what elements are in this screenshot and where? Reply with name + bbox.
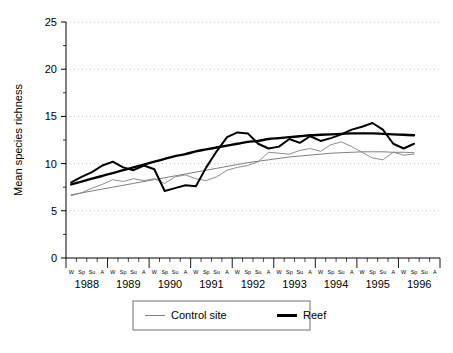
x-season-label: W	[193, 269, 199, 275]
x-season-label: A	[142, 269, 146, 275]
y-tick-label: 5	[51, 205, 57, 217]
y-tick-label: 15	[45, 110, 57, 122]
x-season-label: Sp	[411, 269, 418, 275]
x-season-label: A	[184, 269, 188, 275]
x-season-label: Su	[255, 269, 262, 275]
trendline-control-site	[71, 152, 414, 195]
x-season-label: A	[308, 269, 312, 275]
x-season-label: W	[360, 269, 366, 275]
x-season-label: W	[110, 269, 116, 275]
y-tick-label: 25	[45, 16, 57, 28]
y-tick-label: 0	[51, 252, 57, 264]
x-season-label: W	[318, 269, 324, 275]
x-year-label: 1996	[407, 278, 431, 290]
x-year-label: 1995	[365, 278, 389, 290]
x-season-label: Sp	[203, 269, 210, 275]
x-season-label: Su	[338, 269, 345, 275]
x-season-label: Su	[172, 269, 179, 275]
x-season-label: A	[225, 269, 229, 275]
y-axis-label: Mean species richness	[12, 84, 24, 196]
x-year-label: 1989	[116, 278, 140, 290]
chart-svg: 0510152025Mean species richnessWSpSuA198…	[0, 0, 453, 353]
x-season-label: Su	[213, 269, 220, 275]
x-season-label: Sp	[286, 269, 293, 275]
x-season-label: W	[152, 269, 158, 275]
x-season-label: A	[101, 269, 105, 275]
x-season-label: Sp	[120, 269, 127, 275]
x-season-label: W	[276, 269, 282, 275]
x-season-label: Sp	[369, 269, 376, 275]
x-year-label: 1992	[241, 278, 265, 290]
x-season-label: A	[433, 269, 437, 275]
trendline-reef	[71, 133, 414, 184]
x-season-label: A	[391, 269, 395, 275]
y-tick-label: 20	[45, 63, 57, 75]
x-season-label: Su	[421, 269, 428, 275]
x-year-label: 1991	[199, 278, 223, 290]
x-season-label: Sp	[78, 269, 85, 275]
x-season-label: Su	[296, 269, 303, 275]
x-season-label: Sp	[328, 269, 335, 275]
x-season-label: Sp	[245, 269, 252, 275]
x-season-label: W	[69, 269, 75, 275]
series-control-site	[71, 142, 414, 196]
x-year-label: 1994	[324, 278, 348, 290]
x-season-label: A	[350, 269, 354, 275]
x-year-label: 1990	[158, 278, 182, 290]
chart-figure: 0510152025Mean species richnessWSpSuA198…	[0, 0, 453, 353]
x-season-label: A	[267, 269, 271, 275]
x-year-label: 1988	[75, 278, 99, 290]
x-season-label: W	[235, 269, 241, 275]
legend-label-reef: Reef	[303, 309, 327, 321]
x-year-label: 1993	[282, 278, 306, 290]
x-season-label: Su	[380, 269, 387, 275]
x-season-label: Su	[130, 269, 137, 275]
x-season-label: W	[401, 269, 407, 275]
legend-label-control-site: Control site	[171, 309, 227, 321]
y-tick-label: 10	[45, 158, 57, 170]
x-season-label: Sp	[161, 269, 168, 275]
x-season-label: Su	[89, 269, 96, 275]
